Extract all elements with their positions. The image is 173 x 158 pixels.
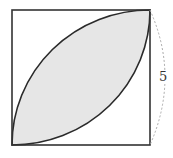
side-length-label: 5: [158, 70, 168, 84]
shaded-lens-region: [12, 10, 150, 145]
diagram-canvas: [0, 0, 173, 158]
